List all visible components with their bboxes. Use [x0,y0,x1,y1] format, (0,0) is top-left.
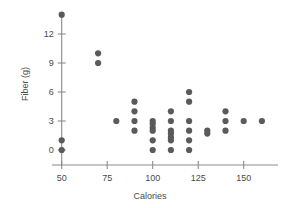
data-point [131,118,137,124]
data-point [186,137,192,143]
data-point [168,137,174,143]
data-point [259,118,265,124]
data-point [222,118,228,124]
y-axis-title: Fiber (g) [20,67,30,101]
data-point [59,137,65,143]
data-point [59,147,65,153]
x-axis-title: Calories [133,191,167,201]
data-point [95,50,101,56]
data-point [168,147,174,153]
data-point [204,130,210,136]
data-point [222,108,228,114]
data-point [113,118,119,124]
data-point [131,108,137,114]
data-point [168,118,174,124]
data-point [150,147,156,153]
y-tick-label: 6 [49,87,54,97]
data-points-layer [59,12,265,154]
chart-canvas: 5075100125150 036912 Calories Fiber (g) [0,0,285,208]
x-tick-label: 100 [145,173,160,183]
data-point [150,128,156,134]
data-point [186,118,192,124]
x-tick-label: 50 [57,173,67,183]
data-point [95,60,101,66]
y-tick-label: 3 [49,116,54,126]
axis-layer [52,12,278,165]
data-point [150,137,156,143]
data-point [131,99,137,105]
data-point [131,128,137,134]
x-tick-label: 125 [191,173,206,183]
data-point [186,99,192,105]
y-tick-label: 12 [44,29,54,39]
data-point [186,147,192,153]
x-tick-layer: 5075100125150 [57,161,252,183]
data-point [59,12,65,18]
y-tick-layer: 036912 [44,29,66,155]
x-tick-label: 75 [102,173,112,183]
data-point [186,128,192,134]
y-tick-label: 9 [49,58,54,68]
scatter-plot-figure: 5075100125150 036912 Calories Fiber (g) [0,0,285,208]
data-point [222,128,228,134]
y-tick-label: 0 [49,145,54,155]
data-point [241,118,247,124]
x-tick-label: 150 [236,173,251,183]
data-point [186,89,192,95]
data-point [168,108,174,114]
